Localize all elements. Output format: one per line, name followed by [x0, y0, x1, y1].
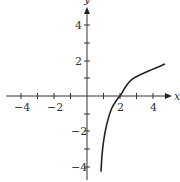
- y-tick-label-neg2: −2: [71, 125, 87, 138]
- function-graph: x y −4 −2 2 4 4 2 −2 −4: [0, 0, 180, 182]
- y-tick-label-2: 2: [75, 55, 82, 68]
- y-axis-label: y: [83, 0, 91, 6]
- x-tick-label-2: 2: [117, 101, 124, 114]
- y-tick-label-neg4: −4: [71, 161, 87, 174]
- x-tick-label-4: 4: [150, 101, 157, 114]
- x-axis-arrow-icon: [165, 93, 172, 99]
- function-curve: [101, 64, 165, 172]
- y-axis-arrow-icon: [84, 7, 90, 14]
- x-tick-label-neg4: −4: [14, 101, 30, 114]
- y-tick-label-4: 4: [75, 19, 82, 32]
- x-tick-label-neg2: −2: [47, 101, 63, 114]
- x-axis-label: x: [174, 90, 180, 103]
